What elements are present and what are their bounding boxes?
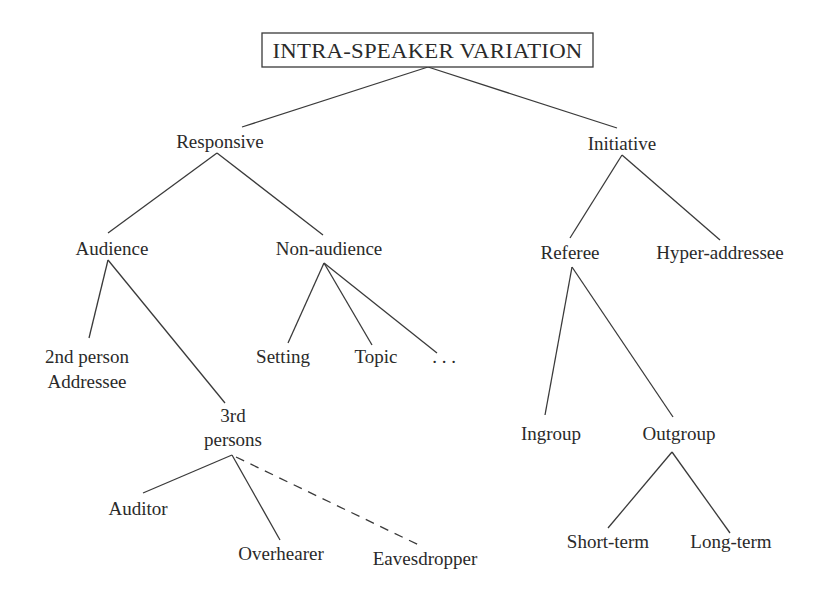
node-topic: Topic xyxy=(355,346,398,367)
edge-non-audience-ellipsis xyxy=(324,263,437,353)
edge-root-responsive xyxy=(242,67,428,127)
node-second-person-line1: 2nd person xyxy=(45,346,129,367)
node-ingroup: Ingroup xyxy=(521,423,581,444)
edge-referee-ingroup xyxy=(545,267,572,415)
node-ellipsis: . . . xyxy=(432,346,456,367)
edge-third-persons-auditor xyxy=(143,455,232,493)
edge-outgroup-long-term xyxy=(672,452,730,533)
intra-speaker-variation-tree: INTRA-SPEAKER VARIATION Responsive Initi… xyxy=(0,0,832,596)
edge-non-audience-topic xyxy=(324,263,372,345)
node-long-term: Long-term xyxy=(690,531,771,552)
node-short-term: Short-term xyxy=(567,531,650,552)
edge-non-audience-setting xyxy=(288,263,324,343)
edge-referee-outgroup xyxy=(572,267,673,417)
edge-initiative-hyper-addressee xyxy=(622,155,720,240)
edge-initiative-referee xyxy=(570,155,622,238)
node-auditor: Auditor xyxy=(108,498,168,519)
node-non-audience: Non-audience xyxy=(276,238,383,259)
edge-outgroup-short-term xyxy=(608,452,672,528)
node-overhearer: Overhearer xyxy=(238,543,324,564)
node-setting: Setting xyxy=(256,346,310,367)
node-second-person-addressee: 2nd person Addressee xyxy=(45,346,129,392)
node-outgroup: Outgroup xyxy=(643,423,716,444)
edge-audience-second-person xyxy=(89,260,108,338)
root-label: INTRA-SPEAKER VARIATION xyxy=(273,40,583,62)
node-referee: Referee xyxy=(540,242,599,263)
edge-responsive-non-audience xyxy=(217,153,323,235)
edge-third-persons-overhearer xyxy=(232,455,280,540)
root-node: INTRA-SPEAKER VARIATION xyxy=(262,33,593,67)
node-third-persons-line1: 3rd xyxy=(220,405,246,426)
node-hyper-addressee: Hyper-addressee xyxy=(656,242,783,263)
edge-responsive-audience xyxy=(108,153,217,233)
node-third-persons-line2: persons xyxy=(204,429,262,450)
node-initiative: Initiative xyxy=(588,133,657,154)
edge-root-initiative xyxy=(428,67,617,128)
node-third-persons: 3rd persons xyxy=(204,405,262,450)
node-eavesdropper: Eavesdropper xyxy=(373,548,478,569)
node-second-person-line2: Addressee xyxy=(47,371,126,392)
node-responsive: Responsive xyxy=(176,131,264,152)
edge-third-persons-eavesdropper xyxy=(236,457,423,547)
node-audience: Audience xyxy=(76,238,149,259)
